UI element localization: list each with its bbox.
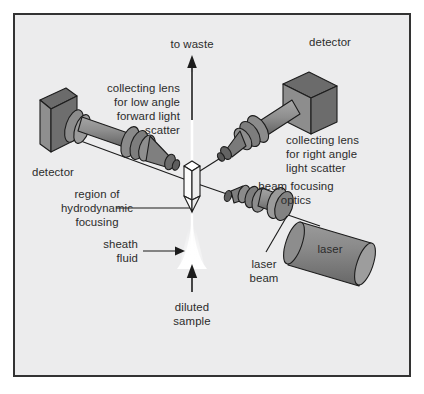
laser-label: laser (317, 243, 342, 255)
detector-right-label: detector (309, 36, 351, 48)
svg-text:beam focusing: beam focusing (258, 180, 333, 192)
svg-text:sample: sample (173, 315, 210, 327)
svg-text:fluid: fluid (117, 252, 138, 264)
svg-text:for low angle: for low angle (114, 96, 180, 108)
svg-text:collecting lens: collecting lens (286, 134, 359, 146)
svg-text:light scatter: light scatter (286, 162, 346, 174)
flow-cytometer-diagram: to waste detector (0, 0, 424, 394)
to-waste-label: to waste (170, 38, 213, 50)
svg-text:laser: laser (251, 258, 276, 270)
svg-text:sheath: sheath (103, 238, 138, 250)
figure-root: to waste detector (0, 0, 424, 394)
svg-text:focusing: focusing (75, 216, 118, 228)
svg-text:beam: beam (250, 272, 279, 284)
svg-text:forward light: forward light (117, 110, 181, 122)
svg-text:scatter: scatter (145, 124, 180, 136)
svg-text:diluted: diluted (175, 301, 209, 313)
svg-text:hydrodynamic: hydrodynamic (61, 202, 133, 214)
detector-left-label: detector (32, 166, 74, 178)
svg-text:region of: region of (74, 188, 120, 200)
svg-text:for right angle: for right angle (286, 148, 357, 160)
svg-text:collecting lens: collecting lens (107, 82, 180, 94)
svg-text:optics: optics (281, 194, 312, 206)
